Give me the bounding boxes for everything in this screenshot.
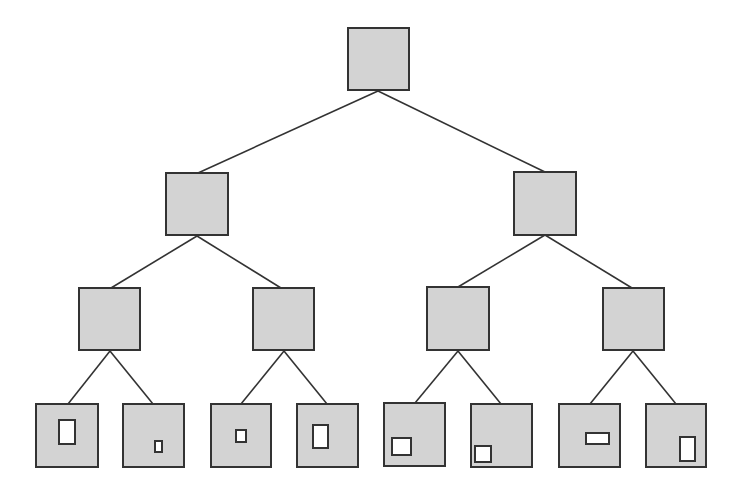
node-box xyxy=(253,288,314,350)
inner-region-rect xyxy=(475,446,491,462)
node-box xyxy=(514,172,576,235)
leaf-node-n12 xyxy=(471,404,532,467)
node-box xyxy=(348,28,409,90)
node-box xyxy=(123,404,184,467)
edge-n0-n1 xyxy=(198,91,378,173)
edge-n2-n5 xyxy=(458,235,545,287)
edge-n5-n11 xyxy=(415,351,458,403)
inner-region-rect xyxy=(586,433,609,444)
leaf-node-n14 xyxy=(646,404,706,467)
leaf-node-n9 xyxy=(211,404,271,467)
tree-edges xyxy=(68,91,676,404)
leaf-node-n10 xyxy=(297,404,358,467)
edge-n1-n4 xyxy=(197,236,281,288)
leaf-node-n13 xyxy=(559,404,620,467)
tree-node-n1 xyxy=(166,173,228,235)
inner-region-rect xyxy=(236,430,246,442)
inner-region-rect xyxy=(392,438,411,455)
edge-n6-n13 xyxy=(590,351,633,404)
node-box xyxy=(646,404,706,467)
inner-region-rect xyxy=(155,441,162,452)
node-box xyxy=(427,287,489,350)
tree-diagram xyxy=(0,0,739,496)
edge-n0-n2 xyxy=(378,91,545,172)
node-box xyxy=(384,403,445,466)
tree-node-n4 xyxy=(253,288,314,350)
tree-node-n2 xyxy=(514,172,576,235)
inner-region-rect xyxy=(59,420,75,444)
inner-region-rect xyxy=(680,437,695,461)
tree-node-n6 xyxy=(603,288,664,350)
edge-n5-n12 xyxy=(458,351,501,404)
edge-n1-n3 xyxy=(111,236,197,288)
node-box xyxy=(79,288,140,350)
edge-n4-n9 xyxy=(241,351,284,404)
edge-n3-n7 xyxy=(68,351,110,404)
edge-n3-n8 xyxy=(110,351,153,404)
edge-n4-n10 xyxy=(284,351,327,404)
edge-n6-n14 xyxy=(633,351,676,404)
tree-node-n3 xyxy=(79,288,140,350)
node-box xyxy=(603,288,664,350)
inner-region-rect xyxy=(313,425,328,448)
node-box xyxy=(166,173,228,235)
tree-node-n0 xyxy=(348,28,409,90)
leaf-node-n8 xyxy=(123,404,184,467)
tree-node-n5 xyxy=(427,287,489,350)
edge-n2-n6 xyxy=(545,235,632,288)
leaf-node-n7 xyxy=(36,404,98,467)
leaf-node-n11 xyxy=(384,403,445,466)
